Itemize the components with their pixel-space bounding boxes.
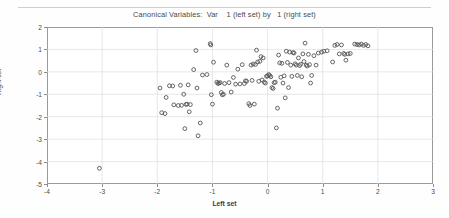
x-tick-label: 3 (423, 188, 443, 195)
y-tick-label: 0 (22, 68, 42, 75)
y-tick-mark (44, 117, 47, 118)
y-tick-label: -3 (22, 136, 42, 143)
x-tick-label: -2 (147, 188, 167, 195)
y-tick-label: -1 (22, 91, 42, 98)
top-divider (18, 7, 431, 8)
y-tick-mark (44, 139, 47, 140)
x-tick-mark (157, 184, 158, 187)
y-tick-label: 2 (22, 24, 42, 31)
y-tick-label: -5 (22, 181, 42, 188)
y-axis-label: Right set (0, 69, 2, 95)
x-tick-mark (102, 184, 103, 187)
x-tick-mark (323, 184, 324, 187)
x-tick-mark (212, 184, 213, 187)
x-tick-label: -3 (92, 188, 112, 195)
chart-figure: Canonical Variables: Var 1 (left set) by… (0, 0, 449, 218)
y-tick-mark (44, 162, 47, 163)
y-tick-mark (44, 94, 47, 95)
y-tick-mark (44, 49, 47, 50)
y-tick-label: -4 (22, 158, 42, 165)
x-tick-mark (47, 184, 48, 187)
y-tick-label: 1 (22, 46, 42, 53)
plot-area (47, 27, 433, 184)
x-axis-label: Left set (0, 200, 449, 207)
chart-title: Canonical Variables: Var 1 (left set) by… (0, 10, 449, 19)
x-tick-label: -1 (202, 188, 222, 195)
x-tick-mark (433, 184, 434, 187)
x-tick-label: 0 (258, 188, 278, 195)
scatter-points (47, 27, 433, 184)
x-tick-label: 2 (368, 188, 388, 195)
y-tick-mark (44, 27, 47, 28)
x-tick-mark (268, 184, 269, 187)
x-tick-label: 1 (313, 188, 333, 195)
x-tick-label: -4 (37, 188, 57, 195)
x-tick-mark (378, 184, 379, 187)
y-tick-mark (44, 72, 47, 73)
y-tick-label: -2 (22, 113, 42, 120)
